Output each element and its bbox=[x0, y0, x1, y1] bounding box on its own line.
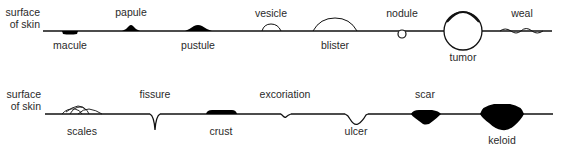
nodule-shape bbox=[398, 30, 406, 38]
label-scales: scales bbox=[67, 125, 97, 137]
label-ulcer: ulcer bbox=[345, 125, 368, 137]
row1-surface-label-line1: surface bbox=[0, 6, 40, 18]
crust-shape bbox=[206, 110, 237, 114]
row2-surface-label-line2: of skin bbox=[0, 100, 41, 112]
macule-shape bbox=[62, 31, 78, 35]
label-pustule: pustule bbox=[181, 39, 215, 51]
label-blister: blister bbox=[321, 39, 349, 51]
label-weal: weal bbox=[511, 7, 533, 19]
blister-shape bbox=[313, 18, 357, 31]
scales-shape bbox=[62, 106, 102, 114]
label-fissure: fissure bbox=[140, 88, 171, 100]
papule-shape bbox=[122, 25, 140, 31]
ulcer-shape bbox=[345, 114, 368, 124]
label-scar: scar bbox=[415, 88, 435, 100]
label-excoriation: excoriation bbox=[260, 88, 311, 100]
scar-shape bbox=[411, 110, 441, 125]
pustule-shape bbox=[185, 25, 212, 31]
excoriation-shape bbox=[281, 114, 291, 117]
fissure-shape bbox=[150, 114, 160, 130]
label-macule: macule bbox=[53, 39, 87, 51]
label-keloid: keloid bbox=[488, 134, 515, 146]
vesicle-shape bbox=[262, 24, 281, 31]
row1-surface-label-line2: of skin bbox=[0, 18, 40, 30]
label-crust: crust bbox=[210, 125, 233, 137]
label-tumor: tumor bbox=[450, 51, 477, 63]
row2-surface-label: surface of skin bbox=[0, 88, 41, 112]
row1-surface-label: surface of skin bbox=[0, 6, 40, 30]
label-papule: papule bbox=[115, 6, 147, 18]
keloid-shape bbox=[480, 104, 524, 130]
label-nodule: nodule bbox=[386, 7, 418, 19]
label-vesicle: vesicle bbox=[255, 7, 287, 19]
row2-surface-label-line1: surface bbox=[0, 88, 41, 100]
